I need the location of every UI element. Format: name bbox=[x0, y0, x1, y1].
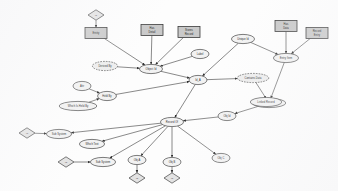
relationship-r_bottom_a[interactable]: Id bbox=[129, 173, 145, 183]
node-label: Sub System bbox=[96, 160, 110, 164]
node-layer: IsIdIdIdId Derived ByObject IdLabelAttrH… bbox=[0, 0, 338, 191]
node-label: Which Text bbox=[85, 142, 98, 146]
attribute-a_bottom_a[interactable]: Obj A bbox=[128, 155, 146, 164]
entity-e_mid_top_a[interactable]: HasDetail bbox=[141, 25, 163, 36]
node-label: Unique Id bbox=[237, 37, 249, 41]
attribute-a_node_c[interactable]: Which Is Held By bbox=[59, 101, 97, 110]
attribute-a_hub_main[interactable]: Record Of bbox=[160, 117, 183, 126]
attribute-a_node_a[interactable]: Attr bbox=[73, 81, 91, 90]
node-label: Entry Item bbox=[280, 56, 292, 60]
attribute-a_bottom_b[interactable]: Obj B bbox=[163, 157, 181, 166]
derived-attribute-a_derived_right[interactable]: Contains Data bbox=[237, 73, 269, 82]
node-label: Obj A bbox=[134, 158, 141, 162]
attribute-group: Derived ByObject IdLabelAttrHeld ByWhich… bbox=[46, 34, 298, 166]
relationship-r_top_left[interactable]: Is bbox=[88, 10, 104, 20]
node-label: Obj Id bbox=[223, 114, 231, 118]
entity-e_right_top_a[interactable]: HasData bbox=[275, 21, 297, 32]
entity-e_mid_top_b[interactable]: StoresRecord bbox=[178, 27, 200, 38]
er-diagram-canvas: IsIdIdIdId Derived ByObject IdLabelAttrH… bbox=[0, 0, 338, 191]
node-label: Sub System bbox=[52, 132, 66, 136]
attribute-a_obj_right[interactable]: Obj Id bbox=[218, 111, 236, 120]
node-label: Obj C bbox=[218, 156, 225, 160]
node-label: Label bbox=[197, 52, 204, 56]
attribute-a_bottom_c[interactable]: Obj C bbox=[212, 153, 230, 162]
attribute-a_center[interactable]: Id_A bbox=[189, 75, 207, 84]
attribute-a_left_small[interactable]: Which Text bbox=[79, 139, 104, 148]
node-label: Entity bbox=[93, 31, 100, 35]
node-label: StoresRecord bbox=[185, 28, 194, 35]
node-label: Id_A bbox=[195, 78, 201, 82]
node-label: Record Of bbox=[166, 120, 178, 124]
node-label: Object Id bbox=[146, 67, 157, 71]
attribute-a_store_right[interactable]: Entry Item bbox=[273, 53, 298, 62]
attribute-a_left_low[interactable]: Sub System bbox=[90, 157, 115, 166]
node-label: Held By bbox=[102, 94, 112, 98]
node-label: Linked Record bbox=[257, 100, 275, 104]
node-label: Attr bbox=[80, 84, 84, 88]
entity-group: EntityHasDetailStoresRecordHasDataRecord… bbox=[85, 21, 328, 39]
node-label: Contains Data bbox=[244, 76, 262, 80]
relationship-r_bottom_b[interactable]: Id bbox=[164, 173, 180, 183]
attribute-a_unique_right[interactable]: Unique Id bbox=[231, 34, 254, 43]
attribute-a_link_top_right[interactable]: Linked Record bbox=[250, 97, 282, 106]
attribute-a_node_b[interactable]: Held By bbox=[98, 91, 117, 100]
attribute-a_left_mid[interactable]: Sub System bbox=[46, 129, 71, 138]
entity-e_left_top[interactable]: Entity bbox=[85, 28, 107, 39]
attribute-a_hub_upper[interactable]: Object Id bbox=[139, 64, 162, 73]
relationship-r_left_mid[interactable]: Id bbox=[19, 128, 35, 138]
node-label: Which Is Held By bbox=[68, 104, 89, 108]
relationship-r_left_low[interactable]: Id bbox=[58, 157, 74, 167]
derived-attribute-a_derived_left[interactable]: Derived By bbox=[92, 61, 117, 70]
entity-e_right_top_b[interactable]: RecordEntry bbox=[306, 28, 328, 39]
node-label: Derived By bbox=[98, 64, 112, 68]
node-label: Obj B bbox=[169, 160, 176, 164]
attribute-a_small_right[interactable]: Label bbox=[191, 49, 209, 58]
